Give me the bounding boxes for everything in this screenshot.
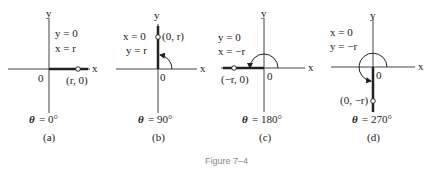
point-label: (−r, 0)	[221, 73, 249, 86]
equation-1: x = 0	[123, 30, 146, 42]
sublabel: (b)	[152, 131, 165, 144]
x-axis-label: x	[92, 62, 98, 74]
panel-c: y x y = 0 x = −r (−r, 0) 0 θ = 180° (c)	[218, 7, 314, 144]
y-axis-label: y	[46, 7, 52, 19]
angle-label: = 180°	[252, 113, 282, 125]
point-marker	[156, 35, 161, 40]
point-label: (0, r)	[162, 30, 184, 43]
sublabel: (a)	[43, 131, 56, 144]
panel-d: y x x = 0 y = −r 0 (0, −r) θ = 270° (d)	[330, 9, 424, 144]
y-axis-label: y	[370, 9, 376, 21]
x-axis-label: x	[308, 61, 314, 73]
sublabel: (c)	[259, 131, 272, 144]
panel-b: y x x = 0 y = r (0, r) 0 θ = 90° (b)	[116, 9, 206, 144]
y-axis-label: y	[154, 9, 160, 21]
origin-label: 0	[267, 70, 273, 82]
point-label: (r, 0)	[66, 74, 88, 87]
equation-1: x = 0	[330, 26, 353, 38]
figure-7-4: y x y = 0 x = r 0 (r, 0) θ = 0° (a) y x …	[0, 0, 441, 175]
point-marker	[232, 66, 237, 71]
theta-symbol: θ	[29, 113, 35, 125]
theta-symbol: θ	[352, 113, 358, 125]
angle-label: = 90°	[148, 113, 172, 125]
equation-2: y = r	[126, 44, 147, 56]
theta-symbol: θ	[138, 113, 144, 125]
equation-1: y = 0	[218, 31, 241, 43]
angle-label: = 0°	[39, 113, 58, 125]
angle-label: = 270°	[362, 113, 392, 125]
sublabel: (d)	[367, 131, 380, 144]
x-axis-label: x	[418, 60, 424, 72]
equation-2: x = −r	[218, 45, 245, 57]
figure-caption: Figure 7–4	[205, 156, 248, 166]
point-marker	[371, 99, 376, 104]
panel-a: y x y = 0 x = r 0 (r, 0) θ = 0° (a)	[8, 7, 98, 144]
equation-1: y = 0	[55, 27, 78, 39]
equation-2: x = r	[55, 42, 76, 54]
angle-arc	[160, 55, 172, 69]
y-axis-label: y	[261, 7, 267, 19]
equation-2: y = −r	[330, 40, 357, 52]
theta-symbol: θ	[242, 113, 248, 125]
x-axis-label: x	[200, 62, 206, 74]
origin-label: 0	[38, 72, 44, 84]
origin-label: 0	[160, 71, 166, 83]
point-label: (0, −r)	[340, 94, 369, 107]
origin-label: 0	[376, 69, 382, 81]
point-marker	[76, 67, 81, 72]
